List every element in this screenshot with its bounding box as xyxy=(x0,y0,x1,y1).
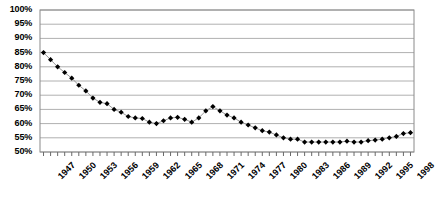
data-point-marker xyxy=(330,139,335,144)
chart-container: 100%95%90%85%80%75%70%65%60%55%50%194719… xyxy=(0,0,443,200)
y-axis-tick-label: 50% xyxy=(2,146,32,156)
data-point-marker xyxy=(97,100,102,105)
data-point-marker xyxy=(260,128,265,133)
y-axis-tick-label: 75% xyxy=(2,75,32,85)
data-point-marker xyxy=(408,130,413,135)
data-point-marker xyxy=(337,139,342,144)
data-point-marker xyxy=(224,112,229,117)
data-point-marker xyxy=(119,110,124,115)
data-point-marker xyxy=(309,139,314,144)
y-axis-tick-label: 85% xyxy=(2,47,32,57)
data-point-marker xyxy=(316,139,321,144)
data-point-marker xyxy=(175,115,180,120)
data-point-marker xyxy=(323,139,328,144)
data-point-marker xyxy=(154,121,159,126)
data-point-marker xyxy=(168,115,173,120)
data-point-marker xyxy=(126,114,131,119)
data-point-marker xyxy=(140,116,145,121)
data-point-marker xyxy=(366,138,371,143)
data-point-marker xyxy=(133,115,138,120)
data-point-marker xyxy=(231,115,236,120)
y-axis-tick-label: 90% xyxy=(2,32,32,42)
y-axis-tick-label: 55% xyxy=(2,132,32,142)
data-point-marker xyxy=(351,139,356,144)
data-point-marker xyxy=(210,104,215,109)
data-point-marker xyxy=(401,131,406,136)
y-axis-tick-label: 70% xyxy=(2,89,32,99)
data-point-marker xyxy=(253,125,258,130)
data-point-marker xyxy=(302,139,307,144)
y-axis-tick-label: 95% xyxy=(2,18,32,28)
data-point-marker xyxy=(274,132,279,137)
y-axis-tick-label: 60% xyxy=(2,118,32,128)
y-axis-tick-label: 100% xyxy=(2,4,32,14)
data-point-marker xyxy=(344,139,349,144)
series-line xyxy=(44,53,411,142)
y-axis-tick-label: 65% xyxy=(2,103,32,113)
data-point-marker xyxy=(161,118,166,123)
data-point-marker xyxy=(281,135,286,140)
data-point-marker xyxy=(182,117,187,122)
data-point-marker xyxy=(267,130,272,135)
data-point-marker xyxy=(358,139,363,144)
y-axis-tick-label: 80% xyxy=(2,61,32,71)
data-point-marker xyxy=(387,135,392,140)
